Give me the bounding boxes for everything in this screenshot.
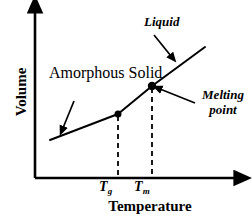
tick-symbol-tg: T — [99, 179, 108, 194]
annotation-melting-point: Meltingpoint — [196, 88, 250, 118]
annotation-melting-point-line1: Melting — [202, 87, 244, 102]
leader-arrow-amorphous-solid — [63, 101, 74, 128]
tick-subscript-tg: g — [108, 186, 113, 196]
annotation-liquid: Liquid — [144, 15, 179, 29]
leader-arrow-liquid — [154, 35, 171, 56]
annotation-melting-point-line2: point — [209, 102, 236, 117]
marker-melting-point — [148, 82, 156, 90]
tick-subscript-tm: m — [143, 186, 150, 196]
y-axis-title: Volume — [14, 56, 30, 128]
tick-symbol-tm: T — [134, 179, 143, 194]
volume-temperature-diagram: Volume Temperature Tg Tm Amorphous Solid… — [0, 0, 252, 223]
x-axis-title: Temperature — [86, 199, 214, 215]
annotation-amorphous-solid: Amorphous Solid — [49, 64, 123, 82]
x-tick-label-tg: Tg — [99, 180, 112, 196]
leader-arrow-melting-point — [160, 89, 195, 103]
curve-amorphous-solid — [50, 114, 118, 140]
marker-glass-transition-point — [115, 111, 122, 118]
x-tick-label-tm: Tm — [134, 180, 150, 196]
